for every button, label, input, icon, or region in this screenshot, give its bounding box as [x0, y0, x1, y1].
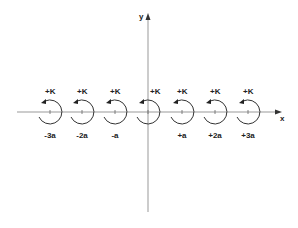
position-label: +2a — [208, 131, 222, 140]
vortex: +K+a — [171, 87, 194, 140]
charge-label: +K — [45, 87, 56, 96]
y-axis-arrow-icon — [146, 13, 151, 20]
position-label: +3a — [241, 131, 255, 140]
vortex: +K-a — [104, 87, 127, 140]
position-label: +a — [177, 131, 187, 140]
rotation-arrow-icon — [173, 99, 178, 104]
charge-label: +K — [77, 87, 88, 96]
charge-label: +K — [177, 87, 188, 96]
rotation-arrow-icon — [106, 99, 111, 104]
rotation-arrow-icon — [239, 99, 244, 104]
rotation-arrow-icon — [139, 99, 144, 104]
vortex: +K-3a — [39, 87, 62, 140]
vortex-diagram: x y +K-3a+K-2a+K-a+K+K+a+K+2a+K+3a — [0, 0, 298, 228]
x-axis-label: x — [280, 114, 285, 123]
charge-label: +K — [110, 87, 121, 96]
y-axis-label: y — [139, 12, 144, 21]
vortex: +K+2a — [204, 87, 227, 140]
vortex: +K — [137, 87, 161, 124]
vortex: +K-2a — [71, 87, 94, 140]
rotation-arrow-icon — [41, 99, 46, 104]
charge-label: +K — [243, 87, 254, 96]
position-label: -a — [111, 131, 119, 140]
rotation-arrow-icon — [73, 99, 78, 104]
charge-label: +K — [210, 87, 221, 96]
position-label: -3a — [44, 131, 56, 140]
vortex: +K+3a — [237, 87, 260, 140]
charge-label: +K — [150, 87, 161, 96]
rotation-arrow-icon — [206, 99, 211, 104]
position-label: -2a — [76, 131, 88, 140]
